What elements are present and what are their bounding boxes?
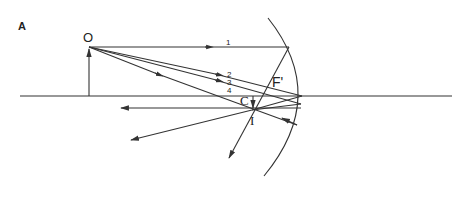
ray-3: 3	[89, 47, 301, 110]
ray-2: 2	[89, 47, 302, 110]
ray-4-label: 4	[227, 86, 232, 95]
panel-label: A	[18, 20, 26, 32]
ray-1: 1	[89, 38, 289, 158]
center-label: C	[240, 93, 249, 108]
image-label: I	[250, 113, 254, 128]
reflected-ray-lower-left	[131, 110, 252, 140]
ray-diagram: A O 1 2 3 4 F' C I	[0, 0, 464, 215]
concave-mirror	[264, 18, 298, 176]
ray-1-label: 1	[226, 38, 231, 47]
focus-label: F'	[272, 74, 283, 90]
object-label: O	[83, 30, 93, 45]
ray-4: 4	[89, 47, 297, 125]
